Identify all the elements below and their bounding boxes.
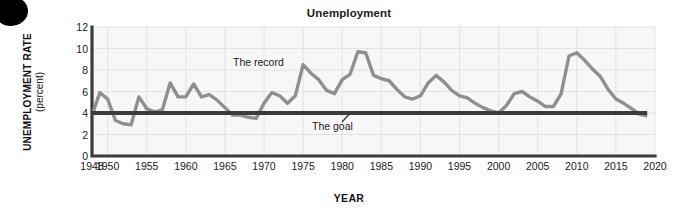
- annotation-record-label: The record: [233, 56, 284, 68]
- chart-page: Unemployment UNEMPLOYMENT RATE (percent)…: [0, 0, 698, 221]
- annotation-goal-label: The goal: [312, 120, 353, 132]
- chart-plot: The record The goal: [0, 0, 698, 221]
